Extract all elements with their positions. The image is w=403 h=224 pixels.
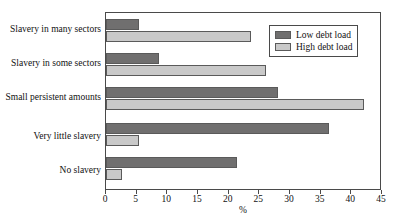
category-label: Small persistent amounts (2, 92, 101, 103)
x-tick-label: 10 (162, 194, 172, 205)
bar-high-debt (106, 31, 251, 42)
x-tick-label: 5 (133, 194, 138, 205)
category-axis-labels: Slavery in many sectors Slavery in some … (0, 12, 101, 190)
bar-low-debt (106, 123, 329, 134)
chart-legend: Low debt load High debt load (269, 25, 358, 57)
legend-label: High debt load (296, 42, 352, 53)
plot-area: Low debt load High debt load (105, 12, 381, 190)
bar-high-debt (106, 135, 139, 146)
bar-low-debt (106, 19, 139, 30)
x-tick-label: 30 (284, 194, 294, 205)
category-label: No slavery (2, 165, 101, 176)
x-tick-label: 45 (376, 194, 386, 205)
bar-group (106, 87, 380, 111)
legend-item-high-debt: High debt load (275, 41, 352, 53)
bar-high-debt (106, 65, 266, 76)
legend-label: Low debt load (296, 30, 351, 41)
legend-swatch-icon (275, 43, 291, 51)
x-tick-label: 20 (223, 194, 233, 205)
bar-low-debt (106, 87, 278, 98)
x-tick-label: 0 (103, 194, 108, 205)
x-tick-label: 25 (254, 194, 264, 205)
bar-group (106, 123, 380, 147)
bar-high-debt (106, 99, 364, 110)
bar-low-debt (106, 53, 159, 64)
x-tick-label: 35 (315, 194, 325, 205)
legend-item-low-debt: Low debt load (275, 29, 352, 41)
bar-high-debt (106, 169, 122, 180)
x-tick-label: 15 (192, 194, 202, 205)
category-label: Slavery in some sectors (2, 58, 101, 69)
x-tick-label: 40 (346, 194, 356, 205)
legend-swatch-icon (275, 31, 291, 39)
bar-chart: Slavery in many sectors Slavery in some … (0, 0, 403, 224)
bar-group (106, 157, 380, 181)
category-label: Slavery in many sectors (2, 24, 101, 35)
x-axis-title: % (105, 205, 381, 215)
category-label: Very little slavery (2, 131, 101, 142)
bar-low-debt (106, 157, 237, 168)
